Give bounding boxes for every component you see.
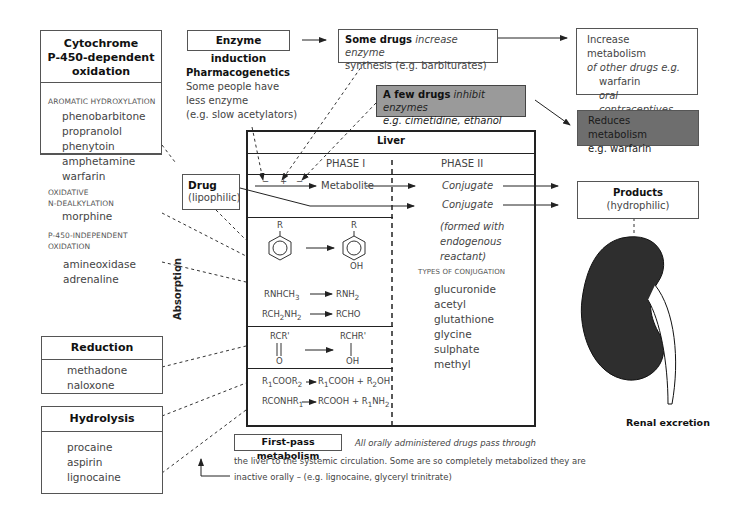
oh-label: OH [350,261,363,271]
liver-title-row: Liver [246,130,536,154]
cyp450-enclosure [40,30,162,154]
first-pass-title-box: First-pass metabolism [234,434,342,451]
section-caption: OXIDATIVE [48,187,160,198]
drug-item: lignocaine [67,470,162,485]
conjugation-type: acetyl [434,297,534,312]
conjugation-type: sulphate [434,342,534,357]
reduction-box: Reduction methadone naloxone [41,336,163,394]
hydrolysis-box: Hydrolysis procaine aspirin lignocaine [41,406,163,494]
reduction-to-top: RCHR' [340,331,366,341]
drug-item: amphetamine [62,154,160,169]
formed-with-line: (formed with [418,219,534,234]
section-caption: N-DEALKYLATION [48,198,160,209]
conjugation-type: methyl [434,357,534,372]
phase-row: PHASE I PHASE II [246,154,536,175]
r-label: R [277,220,283,230]
products-title: Products [578,186,698,200]
pharmacogenetics-line: Some people have [186,80,326,94]
products-box: Products (hydrophilic) [577,181,699,219]
drug-item: warfarin [62,169,160,184]
deamination-from: RCH2NH2 [262,309,302,322]
renal-excretion-label: Renal excretion [626,416,710,430]
some-drugs-line2: synthesis (e.g. barbiturates) [345,59,491,72]
phase1-label: PHASE I [326,158,365,169]
metabolite-label: Metabolite [321,180,374,191]
conjugate-label-1: Conjugate [442,180,493,191]
enzyme-induction-box: Enzyme induction [187,30,290,51]
deamination-to: RCHO [336,309,361,319]
drug-item: amineoxidase [63,257,160,272]
drug-item: procaine [67,440,162,455]
reduces-metabolism-box: Reduces metabolism e.g. warfarin [577,110,699,146]
drug-item: naloxone [67,378,162,393]
drug-subtitle: (lipophilic) [188,192,234,203]
first-pass-line-2: the liver to the systemic circulation. S… [234,456,586,466]
section-caption: OXIDATION [48,241,160,252]
conjugation-type: glycine [434,327,534,342]
sign-minus: − [296,176,303,186]
conjugation-type: glucuronide [434,282,534,297]
types-caption: TYPES OF CONJUGATION [418,267,534,278]
inhibit-enzymes-box: A few drugs inhibit enzymes e.g. cimetid… [376,85,526,117]
increase-line-2: of other drugs e.g. [587,61,687,75]
phase1-reduction-box [246,327,393,369]
phase2-label: PHASE II [441,158,483,169]
absorption-label: Absorption [172,258,183,320]
first-pass-line-1: All orally administered drugs pass throu… [355,438,536,448]
products-subtitle: (hydrophilic) [578,200,698,211]
pharmacogenetics-line: less enzyme [186,94,326,108]
hydrolysis-eq-2-to: RCOOH + R1NH2 [318,396,389,409]
pharmacogenetics-note: Pharmacogenetics Some people have less e… [186,66,326,122]
enzyme-induction-label: Enzyme induction [188,31,289,67]
reduces-line-1: Reduces metabolism [588,114,688,142]
increase-line-3: warfarin [587,75,687,89]
hydrolysis-eq-1-to: R1COOH + R2OH [318,376,390,389]
pharmacogenetics-line: (e.g. slow acetylators) [186,108,326,122]
increase-line-1: Increase metabolism [587,33,687,61]
r-label: R [351,220,357,230]
formed-with-line: endogenous [418,234,534,249]
reduction-to-bottom: OH [346,356,359,366]
drug-item: morphine [62,209,160,224]
reduction-from-bottom: O [276,356,283,366]
drug-item: methadone [67,363,162,378]
few-drugs-line2: e.g. cimetidine, ethanol [383,114,519,127]
formed-with-line: reactant) [418,249,534,264]
sign-minus: − [262,176,269,186]
drug-title: Drug [188,178,234,192]
some-drugs-box: Some drugs increase enzyme synthesis (e.… [338,29,498,63]
conjugate-label-2: Conjugate [442,199,493,210]
pharmacogenetics-title: Pharmacogenetics [186,66,326,80]
hydrolysis-title: Hydrolysis [42,407,162,432]
first-pass-line-3: inactive orally – (e.g. lignocaine, glyc… [234,472,452,482]
reduction-from-top: RCR' [270,331,290,341]
hydrolysis-eq-1-from: R1COOR2 [262,376,302,389]
sign-plus: + [280,176,287,186]
few-drugs-bold: A few drugs [383,89,450,100]
liver-title: Liver [246,130,536,152]
drug-box: Drug (lipophilic) [182,174,240,210]
drug-item: adrenaline [63,272,160,287]
phase2-notes: (formed with endogenous reactant) TYPES … [418,219,534,372]
increase-metabolism-box: Increase metabolism of other drugs e.g. … [576,28,698,95]
section-caption: P-450-INDEPENDENT [48,230,160,241]
dealkylation-from: RNHCH3 [264,289,300,302]
drug-item: aspirin [67,455,162,470]
dealkylation-to: RNH2 [336,289,359,302]
kidney-icon [581,237,663,380]
some-drugs-bold: Some drugs [345,34,412,45]
reduction-title: Reduction [42,337,162,360]
reduces-line-2: e.g. warfarin [588,142,688,156]
conjugation-type: glutathione [434,312,534,327]
hydrolysis-eq-2-from: RCONHR1 [262,396,303,409]
